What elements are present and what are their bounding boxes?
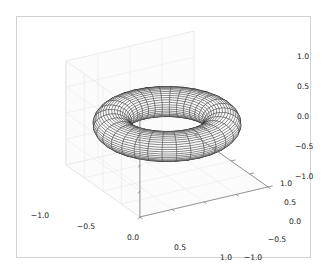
y-tick-label: −0.5 [268, 235, 287, 244]
torus-mesh-face [163, 138, 176, 140]
y-tick-mark [172, 209, 175, 211]
y-tick-mark [204, 202, 207, 204]
torus-mesh-face [170, 100, 178, 103]
torus-mesh-face [162, 100, 170, 102]
torus-mesh-face [161, 95, 170, 97]
torus-mesh-face [162, 147, 176, 150]
z-tick-label: 0.5 [297, 82, 309, 91]
x-tick-mark [231, 160, 235, 161]
torus-mesh-face [161, 93, 170, 95]
torus-mesh-face [162, 145, 176, 148]
y-tick-label: 0.0 [289, 217, 301, 226]
z-tick-mark [138, 217, 140, 219]
torus-mesh-face [162, 109, 169, 111]
torus-mesh-face [162, 105, 169, 107]
x-tick-label: 0.0 [127, 233, 139, 242]
x-tick-label: −0.5 [77, 222, 96, 231]
torus-mesh-face [161, 92, 171, 94]
x-tick-label: 0.5 [174, 243, 186, 252]
y-tick-label: −1.0 [244, 253, 263, 262]
x-tick-label: 1.0 [220, 253, 232, 262]
y-tick-mark [236, 194, 239, 196]
torus-mesh-face [162, 111, 169, 113]
torus-3d-plot: −1.0−0.50.00.51.0−1.0−0.50.00.51.01.00.5… [0, 0, 329, 277]
z-tick-label: −1.0 [295, 172, 314, 181]
x-tick-mark [268, 186, 272, 187]
z-tick-label: −0.5 [295, 142, 314, 151]
torus-mesh-face [162, 102, 170, 104]
y-tick-label: 0.5 [284, 198, 296, 207]
torus-mesh-face [163, 140, 176, 142]
torus-mesh-face [162, 149, 176, 151]
torus-mesh-face [162, 107, 169, 109]
z-tick-label: 1.0 [297, 52, 309, 61]
torus-mesh-face [112, 110, 115, 114]
torus-mesh-face [161, 98, 169, 100]
z-tick-label: 0.0 [297, 112, 309, 121]
torus-mesh-face [109, 110, 112, 115]
torus-mesh-face [162, 152, 177, 154]
torus-mesh-face [162, 142, 176, 144]
x-tick-mark [250, 173, 254, 174]
y-tick-mark [140, 217, 143, 219]
torus-mesh-face [219, 108, 222, 112]
torus-mesh-face [216, 108, 219, 113]
x-tick-label: −1.0 [31, 211, 50, 220]
y-tick-label: 1.0 [280, 179, 292, 188]
torus-mesh-face [154, 100, 162, 103]
figure-canvas: −1.0−0.50.00.51.0−1.0−0.50.00.51.01.00.5… [0, 0, 329, 277]
